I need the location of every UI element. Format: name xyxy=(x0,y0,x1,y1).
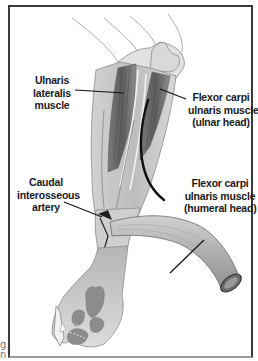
fcu-humeral-head-muscle xyxy=(110,216,238,290)
label-line: muscle xyxy=(27,99,77,112)
label-line: ulnaris muscle xyxy=(188,104,254,117)
olecranon xyxy=(150,42,180,72)
label-fcu-humeral-head: Flexor carpi ulnaris muscle (humeral hea… xyxy=(184,177,256,215)
label-fcu-ulnar-head: Flexor carpi ulnaris muscle (ulnar head) xyxy=(188,91,254,129)
label-ulnaris-lateralis: Ulnaris lateralis muscle xyxy=(27,74,77,112)
label-line: Ulnaris xyxy=(27,74,77,87)
margin-char: n xyxy=(0,350,6,360)
label-line: Caudal xyxy=(17,176,75,189)
label-line: (humeral head) xyxy=(184,202,256,215)
label-caudal-interosseous-artery: Caudal interosseous artery xyxy=(17,176,75,214)
label-line: artery xyxy=(17,201,75,214)
margin-text-cropped: g n xyxy=(0,340,6,360)
label-line: lateralis xyxy=(27,87,77,100)
label-line: interosseous xyxy=(17,189,75,202)
label-line: ulnaris muscle xyxy=(184,190,256,203)
label-line: Flexor carpi xyxy=(188,91,254,104)
label-line: Flexor carpi xyxy=(184,177,256,190)
label-line: (ulnar head) xyxy=(188,116,254,129)
